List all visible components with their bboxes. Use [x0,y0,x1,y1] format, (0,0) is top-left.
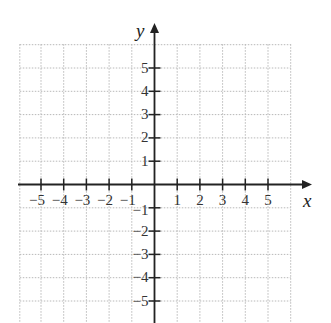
y-axis-label: y [136,21,144,40]
y-tick-label: −1 [133,203,149,218]
x-tick-label: 3 [219,193,227,208]
y-tick-label: −5 [133,294,149,309]
y-tick-label: 3 [141,107,149,122]
x-tick-label: −2 [97,193,113,208]
y-tick-label: −3 [133,247,149,262]
x-tick-label: −4 [52,193,68,208]
x-tick-label: 4 [242,193,250,208]
x-tick-label: 2 [196,193,204,208]
x-tick-label: 5 [264,193,272,208]
y-axis-arrow-icon [150,23,159,33]
y-tick-label: −4 [133,270,149,285]
y-tick-label: 5 [141,61,149,76]
x-axis-label: x [303,191,311,210]
y-tick-label: 1 [141,154,149,169]
coordinate-plane [0,0,331,323]
x-tick-label: −3 [74,193,90,208]
y-tick-label: −2 [133,224,149,239]
x-tick-label: 1 [173,193,181,208]
y-tick-label: 4 [141,84,149,99]
x-axis-arrow-icon [302,180,312,189]
y-tick-label: 2 [141,130,149,145]
x-tick-label: −5 [29,193,45,208]
